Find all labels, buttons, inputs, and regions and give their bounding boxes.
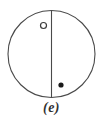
figure-container: (e) bbox=[0, 0, 103, 122]
filled-marker-icon bbox=[58, 82, 63, 87]
hollow-marker-icon bbox=[41, 23, 47, 29]
figure-caption-label: (e) bbox=[0, 100, 103, 116]
